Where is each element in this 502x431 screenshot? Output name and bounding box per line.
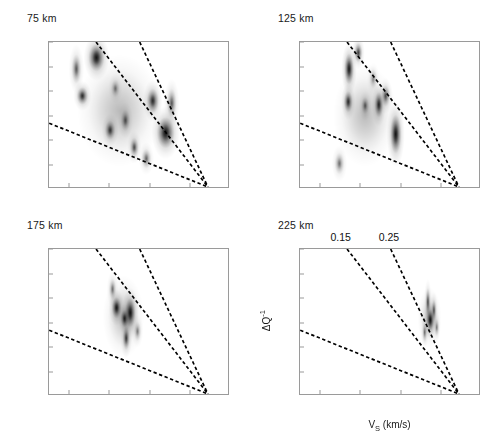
contour-lines [300, 249, 479, 394]
x-tick-mark [400, 390, 401, 394]
x-tick-mark [189, 183, 190, 187]
x-tick-mark [360, 183, 361, 187]
y-tick-mark [300, 115, 304, 116]
y-tick-mark [300, 371, 304, 372]
y-tick-mark [49, 91, 53, 92]
contour-label-025: 0.25 [379, 231, 399, 243]
y-tick-mark [300, 273, 304, 274]
y-tick-mark [49, 347, 53, 348]
y-tick-mark [49, 249, 53, 250]
x-tick-mark [440, 390, 441, 394]
contour-line-0.15 [96, 249, 208, 394]
y-tick-mark [300, 322, 304, 323]
x-axis-label: VS (km/s) [368, 419, 410, 431]
y-tick-mark [300, 249, 304, 250]
x-tick-mark [109, 183, 110, 187]
x-tick-mark [189, 390, 190, 394]
y-axis-label-text: ΔQ [261, 316, 272, 330]
y-tick-mark [300, 164, 304, 165]
x-axis-label-unit: (km/s) [380, 419, 411, 430]
plot-area: 0.0150.010.0050-0.005-0.01-0.0154.34.44.… [48, 248, 229, 395]
plot-area: 0.0150.010.0050-0.005-0.01-0.0154.34.44.… [48, 41, 229, 188]
y-tick-mark [300, 347, 304, 348]
x-tick-mark [440, 183, 441, 187]
figure-vs-attenuation-panels: 75 km0.0150.010.0050-0.005-0.01-0.0154.3… [0, 0, 502, 431]
contour-line-0.15 [347, 42, 459, 187]
panel-depth-125km: 125 km0.0150.010.0050-0.005-0.01-0.0154.… [251, 0, 502, 215]
x-tick-mark [320, 390, 321, 394]
panel-depth-175km: 175 km0.0150.010.0050-0.005-0.01-0.0154.… [0, 205, 251, 431]
y-tick-mark [300, 66, 304, 67]
y-axis-label-exponent: -1 [258, 310, 267, 317]
contour-line-0.25 [140, 249, 208, 394]
x-tick-mark [149, 390, 150, 394]
x-tick-mark [149, 183, 150, 187]
contour-line-0.25 [140, 42, 208, 187]
x-tick-mark [69, 390, 70, 394]
panel-title: 75 km [27, 12, 57, 24]
x-tick-mark [320, 183, 321, 187]
x-tick-mark [360, 390, 361, 394]
y-tick-mark [300, 298, 304, 299]
contour-label-015: 0.15 [330, 231, 350, 243]
y-axis-label: ΔQ-1 [258, 300, 271, 340]
y-tick-mark [49, 164, 53, 165]
plot-area: 0.0150.010.0050-0.005-0.01-0.0154.34.44.… [299, 41, 480, 188]
plot-area: 0.0150.010.0050-0.005-0.01-0.0154.34.44.… [299, 248, 480, 395]
x-tick-mark [109, 390, 110, 394]
y-tick-mark [300, 42, 304, 43]
y-tick-mark [49, 322, 53, 323]
y-tick-mark [300, 140, 304, 141]
contour-line-0.15 [347, 249, 459, 394]
contour-lines [49, 249, 228, 394]
contour-line-0.15 [96, 42, 208, 187]
y-tick-mark [49, 298, 53, 299]
panel-title: 175 km [27, 219, 63, 231]
panel-title: 125 km [278, 12, 314, 24]
x-tick-mark [400, 183, 401, 187]
panel-title: 225 km [278, 219, 314, 231]
y-tick-mark [49, 66, 53, 67]
y-tick-mark [49, 115, 53, 116]
contour-lines [300, 42, 479, 187]
y-tick-mark [49, 42, 53, 43]
panel-depth-225km: 225 km0.150.250.050.0150.010.0050-0.005-… [251, 205, 502, 431]
y-tick-mark [49, 371, 53, 372]
x-tick-mark [69, 183, 70, 187]
y-tick-mark [49, 140, 53, 141]
panel-depth-75km: 75 km0.0150.010.0050-0.005-0.01-0.0154.3… [0, 0, 251, 215]
y-tick-mark [300, 91, 304, 92]
x-axis-label-symbol: V [368, 419, 375, 430]
contour-line-0.25 [391, 249, 459, 394]
contour-line-0.25 [391, 42, 459, 187]
y-tick-mark [49, 273, 53, 274]
contour-lines [49, 42, 228, 187]
